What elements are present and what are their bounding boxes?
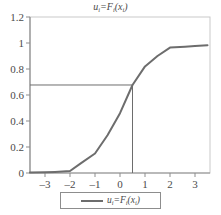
x-tick-label: –3 (35, 179, 55, 190)
x-tick-label: –2 (60, 179, 80, 190)
plot-frame (30, 17, 210, 173)
chart-legend: ui=Fi(xi) (60, 192, 161, 209)
x-tick-label: 1 (135, 179, 155, 190)
chart-figure: ui=Fi(xi) (0, 0, 221, 215)
y-tick-label: 0.8 (0, 64, 24, 75)
x-tick-label: –1 (85, 179, 105, 190)
y-tick-label: 0.4 (0, 116, 24, 127)
y-tick-label: 0.2 (0, 142, 24, 153)
x-tick-marks (45, 173, 195, 177)
y-tick-label: 1.2 (0, 12, 24, 23)
y-tick-label: 1 (0, 38, 24, 49)
y-tick-label: 0.6 (0, 90, 24, 101)
x-tick-label: 3 (185, 179, 205, 190)
y-tick-label: 0 (0, 168, 24, 179)
x-tick-label: 0 (110, 179, 130, 190)
legend-line-swatch (81, 200, 103, 202)
x-tick-label: 2 (160, 179, 180, 190)
legend-label: ui=Fi(xi) (107, 195, 140, 206)
